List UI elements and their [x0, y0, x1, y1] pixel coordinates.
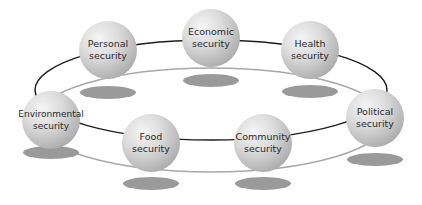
node-label: Food security [132, 131, 170, 155]
node-personal-security: Personal security [79, 21, 137, 79]
node-label: Environmental security [18, 108, 83, 132]
economic-shadow [183, 74, 239, 87]
node-economic-security: Economic security [182, 9, 240, 67]
node-label: Health security [291, 38, 329, 62]
personal-shadow [80, 86, 136, 99]
node-environmental-security: Environmental security [22, 91, 80, 149]
node-food-security: Food security [122, 114, 180, 172]
food-shadow [123, 177, 179, 190]
node-label: Personal security [88, 38, 128, 62]
political-shadow [347, 153, 403, 166]
node-label: Political security [356, 106, 394, 130]
health-shadow [282, 85, 338, 98]
node-community-security: Community security [234, 114, 292, 172]
community-shadow [235, 177, 291, 190]
node-label: Economic security [188, 26, 234, 50]
node-health-security: Health security [281, 21, 339, 79]
node-label: Community security [236, 131, 291, 155]
node-political-security: Political security [346, 89, 404, 147]
